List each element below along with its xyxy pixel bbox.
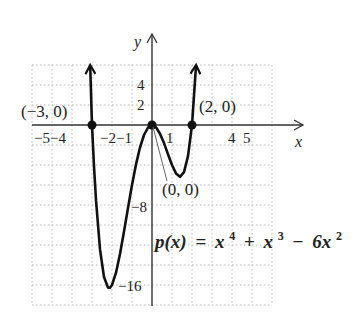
eq-term1: x xyxy=(214,231,225,252)
eq-equals: = xyxy=(195,231,206,252)
eq-lhs: p(x) xyxy=(153,231,187,253)
y-tick-4: 4 xyxy=(137,77,145,93)
curve-left-arrow xyxy=(90,66,92,125)
eq-term1-exp: 4 xyxy=(229,229,235,243)
y-tick-neg8: −8 xyxy=(131,199,147,215)
polynomial-graph: y x −5−4 −2−1 1 4 5 4 2 −8 −16 (−3, 0) (… xyxy=(0,0,363,312)
x-tick-neg5-neg4: −5−4 xyxy=(34,130,66,146)
eq-term3: 6x xyxy=(312,231,332,252)
point-0-0 xyxy=(148,121,157,130)
point-neg3-0 xyxy=(88,121,97,130)
y-axis-label: y xyxy=(132,33,142,51)
x-tick-4-5: 4 5 xyxy=(228,130,251,146)
x-tick-1: 1 xyxy=(166,130,174,146)
eq-term3-exp: 2 xyxy=(336,229,342,243)
x-tick-neg2-neg1: −2−1 xyxy=(100,130,132,146)
label-point-neg3-0: (−3, 0) xyxy=(21,102,67,121)
point-2-0 xyxy=(188,121,197,130)
equation-label: p(x) = x 4 + x 3 − 6x 2 xyxy=(153,223,342,253)
eq-term2: x xyxy=(263,231,274,252)
label-point-2-0: (2, 0) xyxy=(199,97,236,116)
y-tick-neg16: −16 xyxy=(118,278,142,294)
x-axis-label: x xyxy=(294,133,302,150)
eq-minus: − xyxy=(293,231,304,252)
eq-plus: + xyxy=(244,231,255,252)
eq-term2-exp: 3 xyxy=(278,229,284,243)
y-tick-2: 2 xyxy=(137,97,145,113)
label-point-0-0: (0, 0) xyxy=(162,180,199,199)
curve-right-arrow xyxy=(192,66,196,125)
